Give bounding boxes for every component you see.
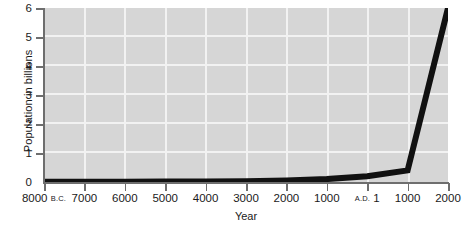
x-tick-mark-0 <box>44 183 46 191</box>
x-tick-label-0: 8000 B.C. <box>22 193 66 205</box>
x-tick-mark-3 <box>165 183 167 191</box>
x-tick-label-8: A.D. 1 <box>355 193 380 205</box>
x-tick-mark-6 <box>286 183 288 191</box>
y-tick-label-4: 4 <box>14 61 32 73</box>
x-tick-mark-5 <box>246 183 248 191</box>
x-tick-mark-7 <box>327 183 329 191</box>
y-tick-label-6: 6 <box>14 3 32 15</box>
y-tick-mark-2 <box>36 124 44 126</box>
y-tick-mark-3 <box>36 95 44 97</box>
y-tick-label-3: 3 <box>14 90 32 102</box>
x-tick-label-1: 7000 <box>72 193 98 205</box>
y-tick-label-1: 1 <box>14 148 32 160</box>
x-tick-mark-10 <box>448 183 450 191</box>
era-label-8: A.D. <box>355 194 370 203</box>
y-tick-mark-4 <box>36 66 44 68</box>
x-tick-label-7: 1000 <box>314 193 340 205</box>
population-chart: Population in billions 6 5 4 3 2 1 0 800… <box>0 0 462 229</box>
y-tick-mark-1 <box>36 153 44 155</box>
y-tick-mark-6 <box>36 8 44 10</box>
x-tick-label-9: 1000 <box>395 193 421 205</box>
x-tick-mark-1 <box>84 183 86 191</box>
x-tick-label-10: 2000 <box>435 193 461 205</box>
x-tick-label-2: 6000 <box>112 193 138 205</box>
y-tick-label-2: 2 <box>14 119 32 131</box>
x-tick-label-3: 5000 <box>152 193 178 205</box>
population-curve <box>44 8 448 182</box>
x-tick-mark-9 <box>408 183 410 191</box>
y-tick-mark-5 <box>36 37 44 39</box>
x-tick-label-6: 2000 <box>274 193 300 205</box>
x-tick-mark-4 <box>206 183 208 191</box>
era-label-0: B.C. <box>51 194 66 203</box>
x-tick-label-5: 3000 <box>233 193 259 205</box>
y-tick-label-0: 0 <box>14 177 32 189</box>
x-tick-label-4: 4000 <box>193 193 219 205</box>
plot-area <box>44 8 448 182</box>
x-axis-title: Year <box>44 210 448 222</box>
y-tick-label-5: 5 <box>14 32 32 44</box>
x-tick-mark-2 <box>125 183 127 191</box>
x-tick-mark-8 <box>367 183 369 191</box>
